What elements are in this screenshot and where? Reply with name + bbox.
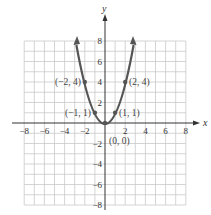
- svg-text:(−1, 1): (−1, 1): [65, 108, 91, 119]
- x-axis-arrow-icon: [193, 121, 200, 126]
- svg-text:(0, 0): (0, 0): [109, 136, 130, 147]
- svg-text:−4: −4: [60, 126, 70, 136]
- axes: [12, 18, 196, 210]
- svg-text:6: 6: [163, 126, 168, 136]
- svg-text:8: 8: [184, 126, 189, 136]
- svg-text:4: 4: [143, 126, 148, 136]
- x-tick-labels: −8 −6 −4 −2 2 4 6 8: [19, 126, 188, 136]
- svg-text:−4: −4: [92, 159, 102, 169]
- parabola-graph: x y −8 −6 −4 −2 2 4 6 8 8 6 4 2 −2 −4 −6…: [0, 0, 211, 215]
- svg-text:−8: −8: [92, 200, 102, 210]
- y-axis-label: y: [101, 3, 107, 14]
- svg-text:2: 2: [98, 98, 103, 108]
- svg-text:4: 4: [98, 77, 103, 87]
- y-axis-arrow-icon: [103, 14, 108, 21]
- point-neg2-4: [83, 80, 87, 84]
- point-2-4: [123, 80, 127, 84]
- svg-text:−8: −8: [19, 126, 29, 136]
- svg-text:(−2, 4): (−2, 4): [55, 77, 81, 88]
- point-1-1: [113, 111, 117, 115]
- svg-text:8: 8: [98, 36, 103, 46]
- svg-text:−2: −2: [80, 126, 90, 136]
- svg-text:2: 2: [123, 126, 128, 136]
- curve-arrow-left-icon: [74, 36, 81, 45]
- svg-text:−2: −2: [92, 139, 102, 149]
- svg-text:(2, 4): (2, 4): [129, 77, 150, 88]
- svg-text:6: 6: [98, 57, 103, 67]
- svg-text:−6: −6: [92, 180, 102, 190]
- point-neg1-1: [93, 111, 97, 115]
- point-origin: [103, 121, 107, 125]
- x-axis-label: x: [202, 117, 208, 128]
- svg-text:−6: −6: [40, 126, 50, 136]
- curve-arrow-right-icon: [130, 36, 137, 45]
- svg-text:(1, 1): (1, 1): [119, 108, 140, 119]
